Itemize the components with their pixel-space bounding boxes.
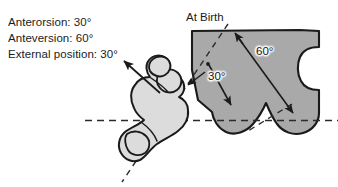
figure-title: At Birth — [186, 11, 224, 23]
anterorsion-angle-vertex — [206, 62, 210, 66]
annotation-anteversion: Anteversion: 60° — [8, 30, 118, 46]
proximal-femur — [119, 56, 188, 162]
anteversion-angle-label: 60° — [256, 45, 273, 57]
measurement-annotations: Anterorsion: 30° Anteversion: 60° Extern… — [8, 14, 118, 62]
annotation-external-position: External position: 30° — [8, 46, 118, 62]
diagram-canvas: Anterorsion: 30° Anteversion: 60° Extern… — [0, 0, 338, 187]
anterorsion-angle-label: 30° — [208, 70, 225, 82]
annotation-anterorsion: Anterorsion: 30° — [8, 14, 118, 30]
